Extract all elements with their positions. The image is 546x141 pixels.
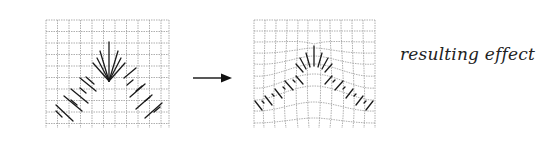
right-strands	[255, 46, 373, 110]
arrow-right-icon	[193, 74, 232, 83]
original-grid-diagram	[0, 0, 546, 141]
right-grid	[254, 20, 375, 128]
left-strands	[56, 42, 162, 121]
caption-text: resulting effect	[400, 44, 535, 64]
